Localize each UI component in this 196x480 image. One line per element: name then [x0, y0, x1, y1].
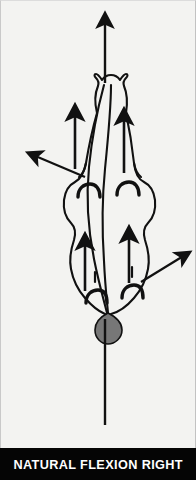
figure-panel: NATURAL FLEXION RIGHT: [0, 0, 196, 480]
facet-mark-upper-left: [78, 184, 100, 197]
caption-label: NATURAL FLEXION RIGHT: [13, 457, 183, 472]
disc-marker: [95, 313, 122, 344]
diagram-area: [0, 0, 196, 448]
spinous-process-line: [88, 85, 111, 313]
facet-mark-upper-right: [117, 182, 139, 195]
caption-bar: NATURAL FLEXION RIGHT: [0, 448, 196, 480]
facet-tick-marks: [95, 267, 132, 282]
external-arrow-left: [33, 155, 85, 177]
external-direction-arrows: [33, 155, 185, 282]
spine-diagram: [1, 1, 196, 449]
